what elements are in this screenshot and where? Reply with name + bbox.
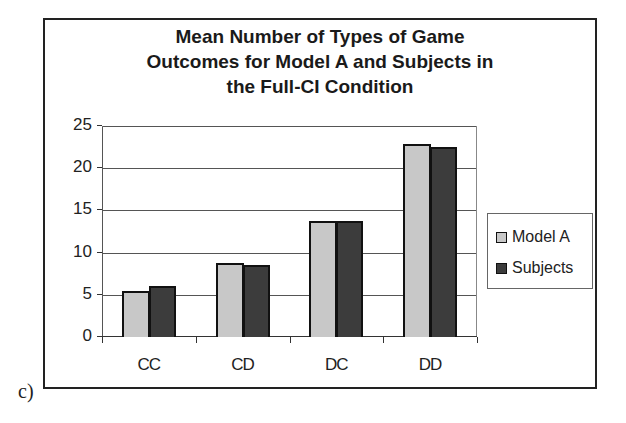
bar-subjects-cc xyxy=(149,286,176,337)
legend: Model A Subjects xyxy=(487,213,593,289)
legend-item-model-a: Model A xyxy=(496,228,570,246)
y-tick-label: 15 xyxy=(52,199,92,219)
bar-model-a-cc xyxy=(122,291,150,337)
bar-model-a-cd xyxy=(216,263,244,337)
legend-swatch-subjects xyxy=(496,263,507,274)
y-tick-label: 25 xyxy=(52,115,92,135)
legend-swatch-model-a xyxy=(496,232,507,243)
bar-model-a-dd xyxy=(403,144,431,337)
gridline xyxy=(103,126,476,127)
x-tick-mark xyxy=(477,337,478,343)
legend-item-subjects: Subjects xyxy=(496,259,573,277)
chart-title-line-1: Mean Number of Types of Game xyxy=(43,24,597,49)
y-tick-mark xyxy=(97,167,102,168)
x-tick-label: DD xyxy=(383,355,477,375)
y-tick-label: 20 xyxy=(52,157,92,177)
y-tick-mark xyxy=(97,252,102,253)
x-tick-label: DC xyxy=(290,355,384,375)
y-tick-label: 10 xyxy=(52,242,92,262)
x-tick-label: CD xyxy=(196,355,290,375)
bar-subjects-dd xyxy=(430,147,457,337)
bar-model-a-dc xyxy=(309,221,337,337)
bar-subjects-cd xyxy=(243,265,270,337)
y-tick-mark xyxy=(97,294,102,295)
x-tick-mark xyxy=(196,337,197,343)
figure-caption: c) xyxy=(18,380,34,403)
legend-label-model-a: Model A xyxy=(512,228,570,246)
x-tick-label: CC xyxy=(102,355,196,375)
x-tick-mark xyxy=(383,337,384,343)
x-tick-mark xyxy=(290,337,291,343)
chart-title-line-2: Outcomes for Model A and Subjects in xyxy=(43,49,597,74)
legend-label-subjects: Subjects xyxy=(512,259,573,277)
x-tick-mark xyxy=(102,337,103,343)
y-tick-mark xyxy=(97,125,102,126)
chart-title-line-3: the Full-CI Condition xyxy=(43,74,597,99)
y-tick-mark xyxy=(97,209,102,210)
y-tick-label: 0 xyxy=(52,326,92,346)
bar-subjects-dc xyxy=(336,221,363,337)
chart-title: Mean Number of Types of Game Outcomes fo… xyxy=(43,24,597,99)
y-tick-label: 5 xyxy=(52,284,92,304)
